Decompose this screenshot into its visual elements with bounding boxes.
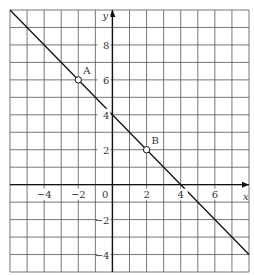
point-a-label: A: [82, 65, 91, 76]
x-axis-arrow-icon: [242, 182, 249, 188]
x-tick-label: −2: [71, 189, 86, 200]
y-tick-label: 8: [103, 40, 109, 51]
y-tick-label: −2: [95, 215, 110, 226]
y-tick-label: 6: [103, 75, 109, 86]
y-axis-label: y: [101, 10, 108, 21]
x-tick-label: 6: [212, 189, 218, 200]
x-axis-label: x: [243, 191, 249, 202]
grid: [10, 10, 249, 272]
origin-label: 0: [102, 189, 108, 200]
y-tick-label: −4: [95, 250, 110, 261]
coordinate-graph: AB −4−22468642−2−40xy: [0, 0, 254, 276]
x-tick-label: 2: [143, 189, 149, 200]
x-tick-label: −4: [37, 189, 52, 200]
point-a-marker: [75, 77, 81, 83]
x-tick-label: 4: [178, 189, 184, 200]
y-tick-label: 2: [103, 145, 109, 156]
y-tick-label: 4: [103, 110, 109, 121]
point-b-marker: [143, 147, 149, 153]
point-b-label: B: [152, 135, 159, 146]
tick-labels: −4−22468642−2−40xy: [37, 10, 249, 261]
